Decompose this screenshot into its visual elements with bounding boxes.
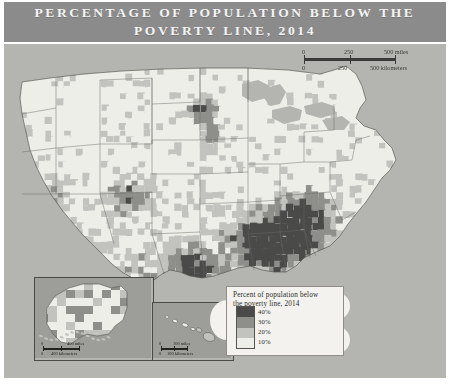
main-scale-bar: 0 250 500 miles 0 250 500 kilometers bbox=[296, 48, 416, 76]
legend-title-line-1: Percent of population below bbox=[233, 291, 338, 300]
legend-cartouche: Percent of population below the poverty … bbox=[202, 282, 354, 360]
alaska-scale-km-end: 400 kilometers bbox=[51, 351, 77, 356]
scale-km-mid: 250 bbox=[338, 64, 347, 71]
legend-swatch-20 bbox=[237, 328, 254, 338]
map-title-line-2: POVERTY LINE, 2014 bbox=[134, 22, 316, 40]
alaska-scale-miles-end: 400 miles bbox=[67, 341, 84, 346]
legend-swatch-30 bbox=[237, 317, 254, 327]
legend-swatch-40 bbox=[237, 307, 254, 317]
alaska-scale-bar: 0 400 miles 0 400 kilometers bbox=[41, 341, 103, 357]
scale-miles-end: 500 miles bbox=[384, 48, 408, 55]
map-title-banner: PERCENTAGE OF POPULATION BELOW THE POVER… bbox=[4, 2, 446, 42]
alaska-tick-e bbox=[79, 346, 80, 351]
scale-tick-0 bbox=[304, 55, 305, 64]
scale-miles-zero: 0 bbox=[302, 48, 305, 55]
scale-miles-mid: 250 bbox=[344, 48, 353, 55]
alaska-scale-km-zero: 0 bbox=[41, 351, 43, 356]
scale-tick-end bbox=[395, 55, 396, 64]
scale-tick-mid bbox=[350, 55, 351, 64]
map-body: 0 250 500 miles 0 250 500 kilometers 0 4… bbox=[4, 44, 446, 378]
legend-label-40: 40% bbox=[258, 308, 271, 315]
scale-km-end: 500 kilometers bbox=[370, 64, 407, 71]
scale-km-zero: 0 bbox=[302, 64, 305, 71]
inset-alaska: 0 400 miles 0 400 kilometers bbox=[34, 277, 154, 361]
hawaii-scale-km-end: 100 kilometers bbox=[167, 351, 193, 356]
legend-color-ramp bbox=[236, 306, 255, 349]
legend-label-20: 20% bbox=[258, 328, 271, 335]
legend-swatch-10 bbox=[237, 338, 254, 348]
poverty-map-figure: PERCENTAGE OF POPULATION BELOW THE POVER… bbox=[0, 0, 450, 391]
legend-label-10: 10% bbox=[258, 338, 271, 345]
hawaii-scale-km-zero: 0 bbox=[159, 351, 161, 356]
legend-label-30: 30% bbox=[258, 318, 271, 325]
map-title-line-1: PERCENTAGE OF POPULATION BELOW THE bbox=[35, 4, 416, 22]
